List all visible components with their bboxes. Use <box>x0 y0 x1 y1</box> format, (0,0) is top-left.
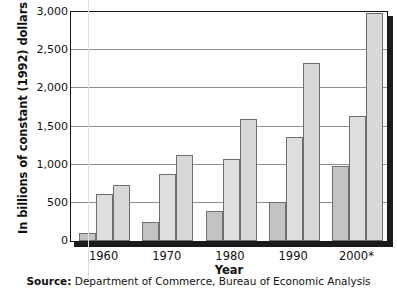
y-axis-tick-label: 3,000 <box>37 5 69 18</box>
x-axis-tick-label: 1980 <box>215 249 244 263</box>
source-note: Source: Department of Commerce, Bureau o… <box>0 275 397 287</box>
bar <box>223 159 240 241</box>
bar <box>349 116 366 241</box>
source-prefix: Source: <box>26 275 71 287</box>
bar <box>286 137 303 241</box>
y-axis-tick-label: 2,000 <box>37 81 69 94</box>
y-axis-tick-label: 0 <box>61 234 68 247</box>
x-axis-tick-label: 2000* <box>339 249 374 263</box>
y-axis-tick-label: 500 <box>47 195 68 208</box>
bar <box>303 63 320 241</box>
bar <box>142 222 159 241</box>
y-axis-tick-labels: 05001,0001,5002,0002,5003,000 <box>22 0 68 250</box>
bar <box>269 202 286 241</box>
bar <box>176 155 193 241</box>
bar <box>206 211 223 241</box>
x-axis-tick-label: 1990 <box>279 249 308 263</box>
bar-chart-figure: In billions of constant (1992) dollars 0… <box>0 0 397 289</box>
gridline <box>71 87 387 88</box>
scan-artifact-line <box>88 0 89 281</box>
bar <box>332 166 349 241</box>
plot-area <box>70 11 388 242</box>
bar <box>366 13 383 241</box>
x-axis-tick-label: 1970 <box>152 249 181 263</box>
gridline <box>71 49 387 50</box>
y-axis-tick-label: 2,500 <box>37 43 69 56</box>
y-axis-tick-label: 1,000 <box>37 157 69 170</box>
source-text: Department of Commerce, Bureau of Econom… <box>75 275 371 287</box>
plot-shadow-right <box>388 16 393 247</box>
bar <box>113 185 130 241</box>
y-axis-tick-label: 1,500 <box>37 119 69 132</box>
plot-shadow-bottom <box>74 241 393 247</box>
gridline <box>71 126 387 127</box>
bar <box>96 194 113 241</box>
bar <box>240 119 257 241</box>
x-axis-tick-label: 1960 <box>89 249 118 263</box>
chart-title-cropped <box>120 0 300 2</box>
bar <box>159 174 176 241</box>
